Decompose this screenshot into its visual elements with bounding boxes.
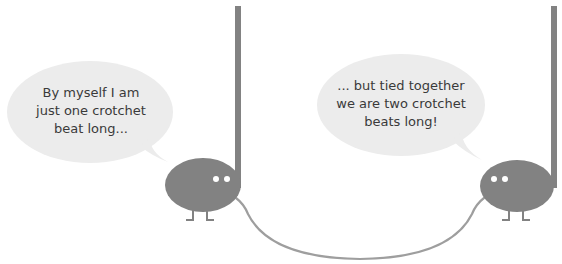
right-note-eye [491,176,497,182]
left-note-stem [235,6,241,188]
right-bubble-line: beats long! [326,113,476,131]
right-bubble-line: we are two crotchet [326,95,476,113]
illustration: By myself I am just one crotchet beat lo… [0,0,562,264]
right-note-eye [502,176,508,182]
right-note-character [480,6,557,220]
right-bubble-text: ... but tied together we are two crotche… [326,77,476,131]
left-note-head [165,158,241,212]
left-bubble-line: By myself I am [20,84,162,102]
left-note-eye [224,176,230,182]
left-bubble-line: just one crotchet [20,102,162,120]
left-bubble-line: beat long... [20,120,162,138]
left-note-character [165,6,241,220]
right-note-stem [551,6,557,188]
left-bubble-text: By myself I am just one crotchet beat lo… [20,84,162,138]
left-note-eye [213,176,219,182]
tie-curve [236,198,484,259]
right-note-head [480,160,554,212]
right-bubble-line: ... but tied together [326,77,476,95]
